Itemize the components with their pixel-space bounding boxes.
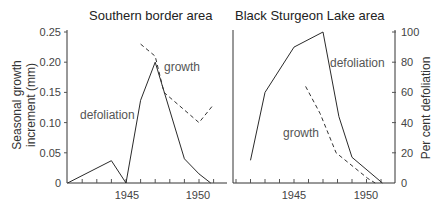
y-tick-label: 100	[401, 26, 419, 38]
right-chart-series	[251, 32, 383, 183]
left-y-axis-title: Seasonal growth increment (mm)	[10, 60, 38, 149]
y-tick-label: 0.10	[40, 117, 61, 129]
right-growth-label: growth	[283, 126, 319, 140]
y-tick-label: 20	[401, 147, 413, 159]
series-growth-line	[141, 44, 214, 123]
left-growth-label: growth	[164, 60, 200, 74]
y-tick-label: 0	[55, 177, 61, 189]
left-x-label-1945: 1945	[115, 189, 139, 201]
right-y-axis-title-text: Per cent defoliation	[419, 57, 433, 160]
y-tick-label: 60	[401, 86, 413, 98]
y-tick-label: 0.20	[40, 56, 61, 68]
right-x-label-1950: 1950	[354, 189, 378, 201]
figure: Southern border area Black Sturgeon Lake…	[0, 0, 440, 209]
y-tick-label: 40	[401, 117, 413, 129]
y-tick-label: 0.15	[40, 86, 61, 98]
left-y-axis-title-line1: Seasonal growth	[10, 60, 24, 149]
y-tick-label: 80	[401, 56, 413, 68]
right-x-label-1945: 1945	[282, 189, 306, 201]
left-chart-title: Southern border area	[89, 8, 213, 23]
series-defoliation-line	[68, 62, 211, 183]
y-tick-label: 0.05	[40, 147, 61, 159]
y-tick-label: 0	[401, 177, 407, 189]
right-defoliation-label: defoliation	[330, 56, 385, 70]
right-chart-title: Black Sturgeon Lake area	[235, 8, 385, 23]
y-tick-label: 0.25	[40, 26, 61, 38]
left-y-axis-title-line2: increment (mm)	[24, 63, 38, 147]
chart-svg: Southern border area Black Sturgeon Lake…	[0, 0, 440, 209]
left-x-label-1950: 1950	[186, 189, 210, 201]
left-defoliation-label: defoliation	[80, 108, 135, 122]
right-y-axis-title: Per cent defoliation	[419, 57, 433, 160]
